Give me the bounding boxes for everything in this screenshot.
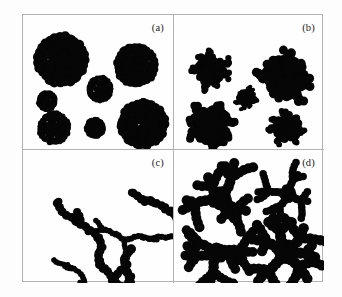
panel-d-label: (d) <box>302 157 315 168</box>
panel-b-label: (b) <box>302 22 315 33</box>
figure-frame: (a) (b) (c) (d) <box>22 14 323 282</box>
panel-b-canvas <box>174 15 324 149</box>
panel-d-canvas <box>174 150 324 283</box>
panel-c: (c) <box>23 149 173 283</box>
figure-root: (a) (b) (c) (d) <box>0 0 342 297</box>
panel-b: (b) <box>173 15 324 149</box>
panel-c-label: (c) <box>152 157 164 168</box>
panel-a-label: (a) <box>152 22 164 33</box>
panel-d: (d) <box>173 149 324 283</box>
panel-a-canvas <box>23 15 173 149</box>
panel-a: (a) <box>23 15 173 149</box>
panel-c-canvas <box>23 150 173 283</box>
